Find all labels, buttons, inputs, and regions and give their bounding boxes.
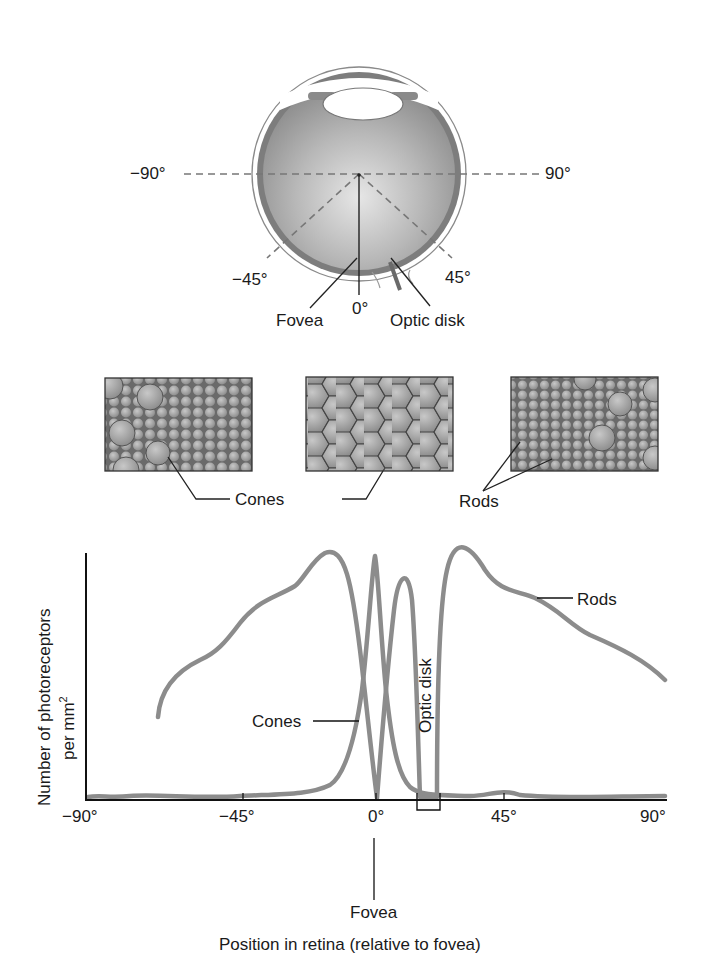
- label-rods: Rods: [459, 493, 499, 510]
- label-optic-disk: Optic disk: [390, 312, 465, 329]
- label-zero: 0°: [352, 300, 368, 317]
- x-tick-neg45: −45°: [219, 808, 255, 825]
- x-tick-pos90: 90°: [640, 808, 666, 825]
- x-tick-pos45: 45°: [491, 808, 517, 825]
- y-axis-label-line2: per mm2: [58, 696, 77, 760]
- mosaic-panel-fovea: [306, 377, 453, 471]
- chart-label-optic-disk: Optic disk: [417, 658, 434, 733]
- label-neg90: −90°: [130, 165, 166, 182]
- x-tick-neg90: −90°: [62, 808, 98, 825]
- chart-label-cones: Cones: [252, 713, 301, 730]
- label-neg45: −45°: [232, 271, 268, 288]
- x-tick-zero: 0°: [368, 808, 384, 825]
- mosaic-panel-rods: [511, 368, 667, 471]
- label-pos90: 90°: [545, 165, 571, 182]
- mosaic-panels: [97, 368, 667, 499]
- label-pos45: 45°: [445, 269, 471, 286]
- figure-canvas: [0, 0, 708, 959]
- chart-label-fovea: Fovea: [350, 904, 397, 921]
- x-axis-title: Position in retina (relative to fovea): [219, 936, 481, 953]
- chart-label-rods: Rods: [577, 591, 617, 608]
- label-cones: Cones: [235, 491, 284, 508]
- y-axis-label-line1: Number of photoreceptors: [36, 609, 53, 807]
- lens: [323, 88, 403, 120]
- rods-curve: [158, 547, 665, 798]
- label-fovea: Fovea: [276, 312, 323, 329]
